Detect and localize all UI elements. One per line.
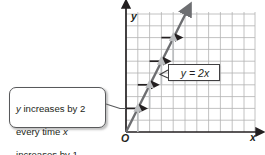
equation-label-text: y = 2x	[169, 65, 221, 82]
callout-line-2: every time x	[16, 126, 68, 137]
y-axis-label: y	[131, 10, 137, 22]
equation-label-box: y = 2x	[168, 64, 220, 81]
callout-line-1: y increases by 2	[16, 103, 85, 114]
figure-root: y increases by 2 every time x increases …	[0, 0, 265, 155]
rate-of-change-callout: y increases by 2 every time x increases …	[9, 87, 106, 128]
origin-label: O	[121, 132, 129, 144]
callout-text: y increases by 2 every time x increases …	[16, 91, 104, 155]
x-axis-label: x	[250, 131, 256, 143]
callout-leader-line	[106, 104, 126, 109]
callout-line-3: increases by 1.	[16, 149, 81, 155]
